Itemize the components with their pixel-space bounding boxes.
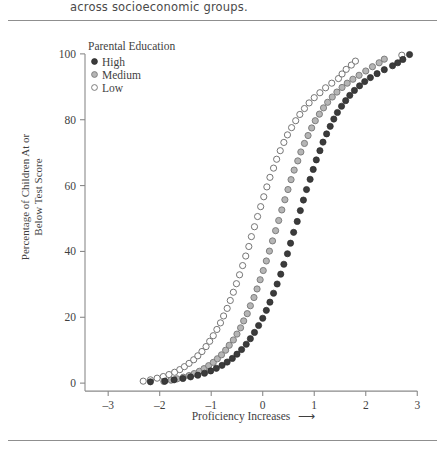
legend-title: Parental Education (88, 40, 175, 52)
y-axis-title-line1: Percentage of Children At or (19, 134, 31, 260)
series-low (140, 52, 405, 384)
x-axis-title-text: Proficiency Increases (192, 410, 291, 422)
svg-text:20: 20 (65, 311, 77, 323)
svg-text:0: 0 (70, 377, 76, 389)
x-axis-title: Proficiency Increases⟶ (85, 409, 420, 423)
svg-text:40: 40 (65, 245, 77, 257)
figure-page: across socioeconomic groups. 02040608010… (0, 0, 445, 456)
legend-marker-high-icon (88, 56, 100, 67)
series-medium (161, 56, 388, 385)
legend-label-medium: Medium (102, 69, 141, 81)
header-rule (8, 20, 437, 21)
legend-marker-medium-icon (88, 69, 100, 80)
svg-text:100: 100 (59, 48, 77, 60)
legend-item-low: Low (88, 81, 175, 94)
x-axis-arrow-icon: ⟶ (298, 409, 313, 423)
axes: 020406080100–3–2–10123 (59, 48, 421, 411)
y-axis-title: Percentage of Children At or Below Test … (19, 102, 45, 292)
legend-marker-low-icon (88, 82, 100, 93)
svg-text:80: 80 (65, 114, 77, 126)
legend-label-low: Low (102, 82, 123, 94)
legend-item-high: High (88, 55, 175, 68)
chart-plot-area: 020406080100–3–2–10123 (0, 24, 445, 434)
svg-text:60: 60 (65, 180, 77, 192)
legend-item-medium: Medium (88, 68, 175, 81)
page-header-text: across socioeconomic groups. (70, 0, 430, 14)
footer-rule (8, 440, 437, 441)
chart-figure: 020406080100–3–2–10123 Percentage of Chi… (0, 24, 445, 434)
y-axis-title-line2: Below Test Score (32, 158, 44, 235)
chart-legend: Parental Education High Medium (88, 40, 175, 94)
legend-label-high: High (102, 56, 125, 68)
data-points (140, 51, 413, 384)
